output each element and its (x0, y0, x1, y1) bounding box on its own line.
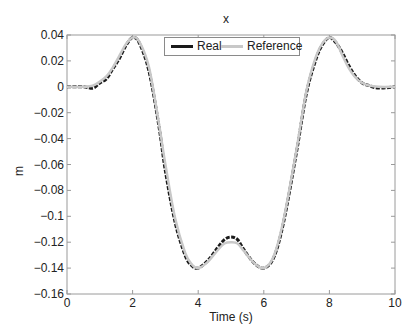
y-tick-label: 0.04 (41, 28, 64, 42)
x-tick-label: 0 (64, 296, 71, 310)
x-tick-label: 4 (195, 296, 202, 310)
x-tick-label: 10 (388, 296, 401, 310)
y-tick-label: 0 (57, 80, 64, 94)
legend-item-real: Real (171, 39, 222, 53)
y-tick-label: −0.12 (34, 235, 64, 249)
y-tick-label: −0.04 (34, 132, 64, 146)
x-tick-label: 8 (326, 296, 333, 310)
x-axis-label: Time (s) (209, 310, 253, 324)
y-tick-label: −0.1 (40, 209, 64, 223)
chart-title: x (223, 12, 229, 26)
legend-label-real: Real (197, 39, 222, 53)
y-tick-label: −0.06 (34, 158, 64, 172)
y-tick-label: −0.14 (34, 261, 64, 275)
y-tick-label: −0.16 (34, 287, 64, 301)
y-tick-label: 0.02 (41, 54, 64, 68)
axes-box (67, 35, 395, 294)
legend-item-reference: Reference (221, 39, 302, 53)
legend-swatch-real (171, 45, 193, 48)
x-tick-label: 2 (129, 296, 136, 310)
y-tick-label: −0.02 (34, 106, 64, 120)
legend-swatch-reference (221, 45, 243, 48)
y-tick-label: −0.08 (34, 183, 64, 197)
y-axis-label: m (12, 166, 26, 176)
x-tick-label: 6 (260, 296, 267, 310)
legend: Real Reference (164, 37, 300, 56)
legend-label-reference: Reference (247, 39, 302, 53)
